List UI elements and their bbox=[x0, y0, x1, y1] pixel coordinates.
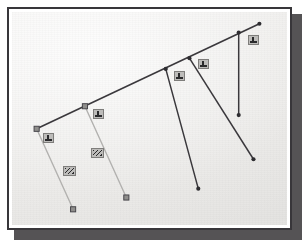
node-marker-node-5 bbox=[237, 31, 241, 35]
branch-line-branch-3 bbox=[166, 69, 199, 189]
endpoint-marker-branch-2 bbox=[124, 195, 129, 200]
node-marker-node-6 bbox=[257, 22, 261, 26]
figure-frame: 12345AB bbox=[7, 7, 292, 230]
annotation-label-label-node-5: 5 bbox=[248, 35, 259, 45]
annotation-label-text: B bbox=[92, 149, 103, 157]
annotation-label-label-node-4: 4 bbox=[198, 59, 209, 69]
endpoint-marker-branch-1 bbox=[71, 207, 76, 212]
annotation-label-label-node-2: 2 bbox=[93, 109, 104, 119]
node-marker-node-2 bbox=[82, 104, 87, 109]
branch-line-branch-4 bbox=[189, 58, 253, 159]
annotation-label-text: A bbox=[64, 167, 75, 175]
annotation-label-label-branch-1: A bbox=[63, 166, 76, 176]
annotation-label-text: 1 bbox=[44, 134, 53, 142]
main-line-group bbox=[37, 24, 260, 129]
annotation-label-label-branch-2: B bbox=[91, 148, 104, 158]
diagram-vector-layer bbox=[12, 12, 287, 225]
figure-root: 12345AB bbox=[0, 0, 306, 244]
figure-canvas: 12345AB bbox=[12, 12, 287, 225]
main-ridge-line bbox=[37, 24, 260, 129]
node-marker-node-4 bbox=[187, 56, 191, 60]
annotation-label-text: 3 bbox=[175, 72, 184, 80]
annotation-label-label-node-3: 3 bbox=[174, 71, 185, 81]
annotation-label-text: 4 bbox=[199, 60, 208, 68]
node-marker-node-3 bbox=[164, 67, 168, 71]
annotation-label-text: 2 bbox=[94, 110, 103, 118]
endpoint-marker-branch-4 bbox=[251, 157, 255, 161]
endpoint-marker-branch-5 bbox=[237, 113, 241, 117]
endpoint-marker-branch-3 bbox=[196, 187, 200, 191]
annotation-label-text: 5 bbox=[249, 36, 258, 44]
branch-line-group bbox=[37, 33, 254, 210]
node-marker-node-1 bbox=[34, 126, 39, 131]
annotation-label-label-node-1: 1 bbox=[43, 133, 54, 143]
